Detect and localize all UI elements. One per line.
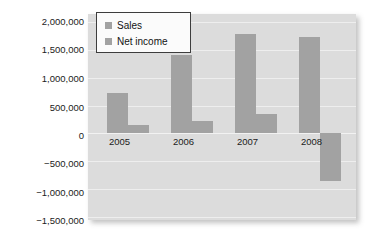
y-axis-tick-label: −500,000 bbox=[0, 159, 84, 169]
y-axis-tick-label: −1,500,000 bbox=[0, 216, 84, 226]
bar-net-income-2005 bbox=[128, 125, 149, 133]
y-axis: 2,000,000 1,500,000 1,000,000 500,000 0 … bbox=[0, 0, 84, 243]
x-axis-tick-label: 2007 bbox=[218, 136, 277, 147]
legend-swatch-icon bbox=[105, 38, 112, 45]
x-axis-tick-label: 2005 bbox=[90, 136, 149, 147]
bar-net-income-2007 bbox=[256, 114, 277, 133]
x-axis-tick-label: 2006 bbox=[154, 136, 213, 147]
y-axis-tick-label: 0 bbox=[0, 131, 84, 141]
gridline-minus500000 bbox=[88, 161, 356, 162]
bar-sales-2005 bbox=[107, 93, 128, 133]
legend-label: Sales bbox=[117, 20, 142, 31]
legend-label: Net income bbox=[117, 36, 168, 47]
legend-swatch-icon bbox=[105, 22, 112, 29]
bar-sales-2007 bbox=[235, 34, 256, 133]
bar-chart-figure: 2,000,000 1,500,000 1,000,000 500,000 0 … bbox=[0, 0, 379, 243]
y-axis-tick-label: 1,500,000 bbox=[0, 45, 84, 55]
gridline-zero bbox=[88, 133, 356, 134]
gridline-minus1000000 bbox=[88, 189, 356, 190]
legend-entry-sales: Sales bbox=[105, 17, 190, 33]
bar-sales-2008 bbox=[299, 37, 320, 133]
x-axis-tick-label: 2008 bbox=[282, 136, 341, 147]
gridline-minus1500000 bbox=[88, 217, 356, 218]
legend-entry-net-income: Net income bbox=[105, 33, 190, 49]
y-axis-tick-label: 1,000,000 bbox=[0, 74, 84, 84]
bar-sales-2006 bbox=[171, 55, 192, 133]
y-axis-tick-label: 500,000 bbox=[0, 103, 84, 113]
y-axis-tick-label: −1,000,000 bbox=[0, 188, 84, 198]
chart-legend: Sales Net income bbox=[96, 12, 191, 53]
bar-net-income-2006 bbox=[192, 121, 213, 133]
y-axis-tick-label: 2,000,000 bbox=[0, 17, 84, 27]
